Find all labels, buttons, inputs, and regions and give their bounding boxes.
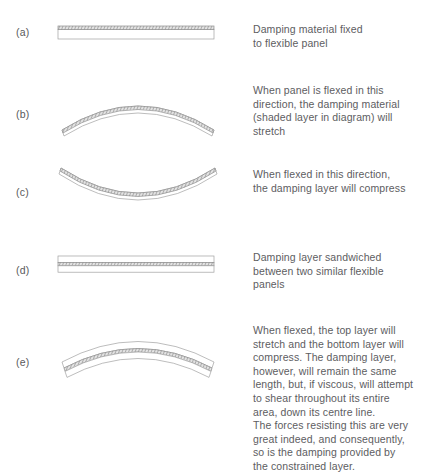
caption-d: Damping layer sandwiched between two sim… bbox=[253, 251, 429, 292]
figure-row-d: (d) Damping layer sandwiched between two… bbox=[0, 248, 432, 304]
caption-a: Damping material fixed to flexible panel bbox=[253, 23, 429, 50]
row-label-c: (c) bbox=[16, 186, 52, 199]
diagram-panel-flexed-concave-up-damping-layer-compressing bbox=[56, 160, 228, 220]
caption-c: When flexed in this direction, the dampi… bbox=[253, 168, 429, 195]
diagram-flexed-sandwich-panel-constrained-damping-layer-shearing bbox=[56, 322, 228, 384]
diagram-flat-panel-with-damping-layer-on-top bbox=[56, 18, 228, 58]
caption-e: When flexed, the top layer will stretch … bbox=[253, 324, 429, 474]
diagram-panel-flexed-convex-up-damping-layer-stretching bbox=[56, 84, 228, 150]
figure-row-c: (c) When flexed in this direction, the d… bbox=[0, 160, 432, 228]
row-label-b: (b) bbox=[16, 108, 52, 121]
figure-row-a: (a) Damping material fixed to flexible p… bbox=[0, 18, 432, 74]
figure-row-b: (b) When panel is flexed in this directi… bbox=[0, 84, 432, 158]
figure-row-e: (e) When flexed, the top layer will stre… bbox=[0, 322, 432, 467]
row-label-a: (a) bbox=[16, 26, 52, 39]
caption-b: When panel is flexed in this direction, … bbox=[253, 84, 429, 138]
diagram-flat-sandwich-panel-with-damping-layer-in-middle bbox=[56, 248, 228, 288]
row-label-d: (d) bbox=[16, 264, 52, 277]
row-label-e: (e) bbox=[16, 356, 52, 369]
